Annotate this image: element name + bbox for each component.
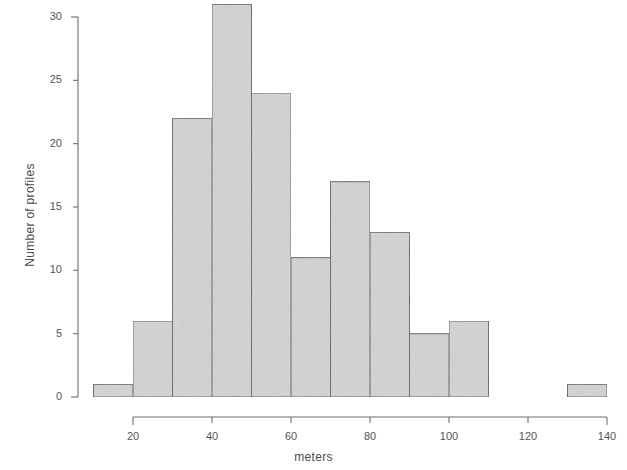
x-axis-title: meters (0, 450, 627, 464)
histogram-bar (252, 93, 292, 397)
x-axis-tick-label: 40 (192, 430, 232, 442)
histogram-bar (449, 321, 489, 397)
x-axis-tick-label: 120 (508, 430, 548, 442)
y-axis-title: Number of profiles (23, 135, 37, 295)
histogram-bar (410, 334, 450, 397)
chart-background (0, 0, 627, 470)
histogram-bar (133, 321, 173, 397)
histogram-bar (291, 258, 331, 397)
histogram-bar (370, 232, 410, 397)
x-axis-tick-label: 140 (587, 430, 627, 442)
x-axis-tick-label: 100 (429, 430, 469, 442)
histogram-bar (173, 118, 213, 397)
y-axis-tick-label: 30 (32, 10, 62, 22)
histogram-bar (331, 182, 371, 397)
histogram-bar (94, 384, 134, 397)
histogram-bar (568, 384, 608, 397)
x-axis-tick-label: 80 (350, 430, 390, 442)
y-axis-tick-label: 0 (32, 390, 62, 402)
histogram-figure: 05101520253020406080100120140 meters Num… (0, 0, 627, 470)
histogram-bar (212, 4, 252, 397)
y-axis-tick-label: 25 (32, 73, 62, 85)
x-axis-tick-label: 60 (271, 430, 311, 442)
histogram-plot-area (0, 0, 627, 470)
x-axis-tick-label: 20 (113, 430, 153, 442)
y-axis-tick-label: 5 (32, 327, 62, 339)
